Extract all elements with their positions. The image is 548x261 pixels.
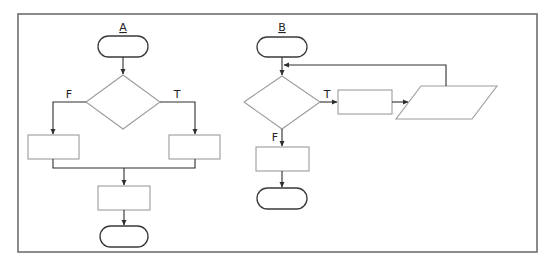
diagram-b-false-label: F [272, 131, 278, 144]
diagram-b-loop-io [396, 86, 497, 119]
diagram-a-decision [86, 75, 160, 129]
flowchart-canvas: A F T B T F [0, 0, 548, 261]
diagram-a-merge-process [98, 186, 150, 210]
diagram-b-exit-process [256, 147, 309, 171]
diagram-a-title: A [119, 21, 127, 34]
diagram-b-title: B [278, 21, 286, 34]
diagram-a-end-terminal [100, 226, 148, 247]
diagram-b-true-label: T [323, 88, 331, 101]
diagram-b-start-terminal [257, 37, 307, 57]
diagram-a-false-branch [53, 102, 86, 134]
diagram-a-merge-line [53, 159, 195, 168]
diagram-b-loop-process [338, 90, 392, 114]
diagram-a-true-process [169, 135, 220, 159]
diagram-a: A F T [28, 21, 220, 247]
diagram-a-true-label: T [173, 88, 181, 101]
diagram-b-loop-back-line [284, 65, 446, 86]
diagram-b-decision [244, 76, 320, 129]
diagram-b-end-terminal [257, 188, 307, 209]
diagram-a-true-branch [160, 102, 195, 134]
diagram-a-false-process [28, 135, 79, 159]
diagram-a-false-label: F [66, 88, 72, 101]
diagram-b: B T F [244, 21, 497, 209]
diagram-a-start-terminal [98, 36, 148, 57]
